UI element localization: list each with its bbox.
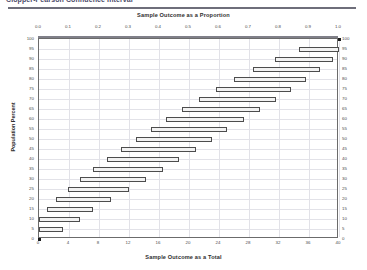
y-right-tick-label: 40 — [342, 156, 360, 161]
y-left-tick-label: 15 — [16, 206, 34, 211]
x-bottom-tick-label: 16 — [147, 240, 169, 245]
horizontal-gridline — [39, 89, 337, 90]
x-bottom-tick-label: 0 — [27, 240, 49, 245]
interval-bar — [93, 167, 163, 172]
top-axis-title: Sample Outcome as a Proportion — [0, 12, 367, 18]
y-right-tick-label: 65 — [342, 106, 360, 111]
y-left-tick-label: 45 — [16, 146, 34, 151]
horizontal-gridline — [39, 99, 337, 100]
y-right-tick-label: 30 — [342, 176, 360, 181]
header-divider — [8, 7, 356, 9]
y-right-tick-label: 75 — [342, 86, 360, 91]
interval-bar — [80, 177, 147, 182]
interval-bar — [182, 107, 259, 112]
y-right-tick-label: 35 — [342, 166, 360, 171]
y-right-tick-label: 70 — [342, 96, 360, 101]
y-left-tick-label: 85 — [16, 66, 34, 71]
interval-bar — [151, 127, 228, 132]
x-bottom-tick-label: 8 — [87, 240, 109, 245]
y-right-tick-label: 80 — [342, 76, 360, 81]
y-right-tick-label: 10 — [342, 216, 360, 221]
x-top-tick-label: 1.0 — [327, 24, 349, 29]
x-top-tick-label: 0.9 — [297, 24, 319, 29]
interval-bar — [275, 57, 334, 62]
interval-bar — [136, 137, 212, 142]
y-right-tick-label: 85 — [342, 66, 360, 71]
y-left-tick-label: 35 — [16, 166, 34, 171]
y-left-tick-label: 20 — [16, 196, 34, 201]
interval-bar — [47, 207, 94, 212]
y-left-tick-label: 90 — [16, 56, 34, 61]
y-left-tick-label: 10 — [16, 216, 34, 221]
y-left-tick-label: 70 — [16, 96, 34, 101]
horizontal-gridline — [39, 159, 337, 160]
interval-bar — [216, 87, 291, 92]
x-bottom-tick-label: 32 — [267, 240, 289, 245]
x-bottom-tick-label: 40 — [327, 240, 349, 245]
y-left-tick-label: 40 — [16, 156, 34, 161]
y-right-tick-label: 15 — [342, 206, 360, 211]
interval-bar — [56, 197, 111, 202]
y-left-tick-label: 65 — [16, 106, 34, 111]
x-top-tick-label: 0.0 — [27, 24, 49, 29]
interval-point — [338, 38, 341, 41]
y-left-tick-label: 30 — [16, 176, 34, 181]
chart-page: Clopper-Pearson Confidence Interval Samp… — [0, 0, 367, 270]
x-top-tick-label: 0.1 — [57, 24, 79, 29]
y-left-tick-label: 80 — [16, 76, 34, 81]
x-top-tick-label: 0.4 — [147, 24, 169, 29]
y-right-tick-label: 0 — [342, 236, 360, 241]
x-top-tick-label: 0.8 — [267, 24, 289, 29]
y-right-tick-label: 90 — [342, 56, 360, 61]
x-top-tick-label: 0.3 — [117, 24, 139, 29]
vertical-gridline — [339, 39, 340, 237]
bottom-axis-title: Sample Outcome as a Total — [0, 254, 367, 260]
y-right-tick-label: 45 — [342, 146, 360, 151]
y-left-tick-label: 95 — [16, 46, 34, 51]
y-right-tick-label: 60 — [342, 116, 360, 121]
interval-bar — [68, 187, 130, 192]
x-top-tick-label: 0.5 — [177, 24, 199, 29]
y-right-tick-label: 50 — [342, 136, 360, 141]
y-right-tick-label: 25 — [342, 186, 360, 191]
y-left-tick-label: 55 — [16, 126, 34, 131]
interval-bar — [234, 77, 306, 82]
y-right-tick-label: 55 — [342, 126, 360, 131]
x-bottom-tick-label: 4 — [57, 240, 79, 245]
x-bottom-tick-label: 36 — [297, 240, 319, 245]
x-bottom-tick-label: 20 — [177, 240, 199, 245]
plot-area — [38, 38, 338, 238]
interval-bar — [39, 217, 80, 222]
y-left-tick-label: 5 — [16, 226, 34, 231]
y-left-tick-label: 100 — [16, 36, 34, 41]
interval-bar — [121, 147, 196, 152]
y-left-tick-label: 25 — [16, 186, 34, 191]
interval-bar — [299, 47, 340, 52]
y-right-tick-label: 20 — [342, 196, 360, 201]
interval-bar — [166, 117, 244, 122]
x-bottom-tick-label: 28 — [237, 240, 259, 245]
interval-bar — [253, 67, 321, 72]
x-top-tick-label: 0.7 — [237, 24, 259, 29]
page-header-text: Clopper-Pearson Confidence Interval — [6, 0, 133, 3]
y-right-tick-label: 95 — [342, 46, 360, 51]
horizontal-gridline — [39, 169, 337, 170]
x-bottom-tick-label: 24 — [207, 240, 229, 245]
interval-bar — [199, 97, 276, 102]
horizontal-gridline — [39, 229, 337, 230]
horizontal-gridline — [39, 219, 337, 220]
y-left-tick-label: 50 — [16, 136, 34, 141]
y-left-tick-label: 75 — [16, 86, 34, 91]
x-top-tick-label: 0.2 — [87, 24, 109, 29]
y-left-tick-label: 0 — [16, 236, 34, 241]
y-right-tick-label: 100 — [342, 36, 360, 41]
interval-bar — [39, 227, 63, 232]
x-top-tick-label: 0.6 — [207, 24, 229, 29]
horizontal-gridline — [39, 49, 337, 50]
y-right-tick-label: 5 — [342, 226, 360, 231]
y-left-tick-label: 60 — [16, 116, 34, 121]
x-bottom-tick-label: 12 — [117, 240, 139, 245]
interval-bar — [107, 157, 180, 162]
